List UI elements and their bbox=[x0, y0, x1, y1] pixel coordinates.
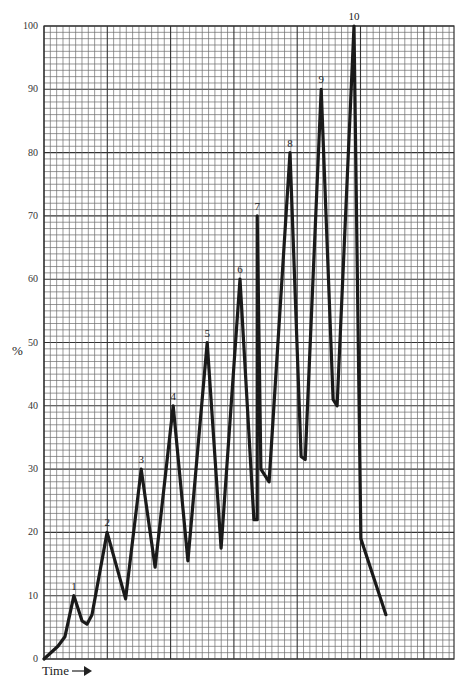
y-tick-label: 80 bbox=[28, 147, 38, 158]
y-tick-labels: 0102030405060708090100 bbox=[23, 20, 38, 664]
grid bbox=[44, 26, 454, 659]
peak-label: 5 bbox=[204, 327, 210, 339]
y-tick-label: 40 bbox=[28, 400, 38, 411]
peak-label: 10 bbox=[348, 10, 360, 22]
y-tick-label: 100 bbox=[23, 20, 38, 31]
line-chart: 0102030405060708090100 12345678910 % Tim… bbox=[0, 0, 462, 681]
peak-label: 1 bbox=[71, 580, 77, 592]
peak-label: 7 bbox=[254, 200, 260, 212]
y-tick-label: 90 bbox=[28, 83, 38, 94]
peak-label: 4 bbox=[170, 390, 176, 402]
y-tick-label: 70 bbox=[28, 210, 38, 221]
peak-labels: 12345678910 bbox=[71, 10, 360, 592]
x-axis-label: Time bbox=[42, 663, 69, 678]
y-tick-label: 0 bbox=[33, 653, 38, 664]
y-tick-label: 30 bbox=[28, 463, 38, 474]
y-axis-label: % bbox=[12, 343, 23, 358]
y-tick-label: 60 bbox=[28, 273, 38, 284]
peak-label: 2 bbox=[104, 516, 110, 528]
peak-label: 6 bbox=[237, 263, 243, 275]
y-tick-label: 10 bbox=[28, 590, 38, 601]
x-axis-arrow-icon bbox=[72, 666, 92, 676]
y-tick-label: 50 bbox=[28, 337, 38, 348]
peak-label: 8 bbox=[287, 137, 293, 149]
peak-label: 9 bbox=[318, 73, 324, 85]
peak-label: 3 bbox=[138, 453, 144, 465]
y-tick-label: 20 bbox=[28, 526, 38, 537]
